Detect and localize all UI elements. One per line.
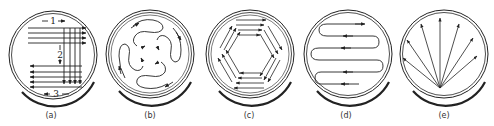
panel-e: (e) — [395, 0, 493, 126]
label-3: 3 — [53, 89, 59, 99]
zigzag-diagram — [297, 0, 395, 110]
serpentine-diagram — [101, 0, 199, 110]
fan-diagram — [395, 0, 493, 110]
panel-c: (c) — [200, 0, 298, 126]
caption-e: (e) — [395, 111, 493, 120]
hexagon-diagram — [200, 0, 298, 110]
label-1: 1 — [50, 16, 56, 26]
panel-b: (b) — [101, 0, 199, 126]
panel-d: (d) — [297, 0, 395, 126]
caption-a: (a) — [2, 111, 100, 120]
label-2: 2 — [57, 50, 63, 60]
raster-diagram: 1 2 3 — [2, 0, 100, 110]
panel-a: 1 2 3 (a) — [2, 0, 100, 126]
caption-d: (d) — [297, 111, 395, 120]
caption-c: (c) — [200, 111, 298, 120]
caption-b: (b) — [101, 111, 199, 120]
